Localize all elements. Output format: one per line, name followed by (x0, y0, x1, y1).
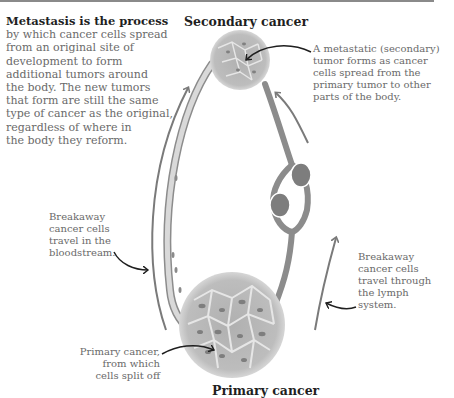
lymph-vessel (265, 84, 311, 305)
lymph-callout: Breakaway cancer cells travel through th… (358, 251, 454, 311)
lymph-node (291, 163, 311, 187)
callout-line: travel in the (49, 235, 129, 247)
bloodstream-callout: Breakaway cancer cells travel in the blo… (49, 211, 129, 259)
lymph-node (270, 193, 290, 217)
secondary-tumor (210, 30, 270, 90)
callout-line: cells split off (60, 370, 160, 382)
callout-line: tumor forms as cancer (313, 55, 453, 67)
callout-line: system. (358, 299, 454, 311)
callout-line: the lymph (358, 287, 454, 299)
callout-line: from which (60, 358, 160, 370)
callout-line: Primary cancer, (60, 346, 160, 358)
callout-line: Breakaway (358, 251, 454, 263)
callout-line: cancer cells (358, 263, 454, 275)
callout-line: travel through (358, 275, 454, 287)
callout-line: parts of the body. (313, 91, 453, 103)
callout-line: A metastatic (secondary) (313, 43, 453, 55)
callout-line: Breakaway (49, 211, 129, 223)
callout-line: bloodstream. (49, 247, 129, 259)
secondary-callout: A metastatic (secondary) tumor forms as … (313, 43, 453, 103)
lymph-arrow (315, 238, 336, 330)
callout-line: cells spread from the (313, 67, 453, 79)
primary-tumor (179, 272, 285, 378)
callout-line: cancer cells (49, 223, 129, 235)
callout-line: primary tumor to other (313, 79, 453, 91)
primary-callout: Primary cancer, from which cells split o… (60, 346, 160, 382)
lymph-callout-pointer (326, 303, 356, 309)
